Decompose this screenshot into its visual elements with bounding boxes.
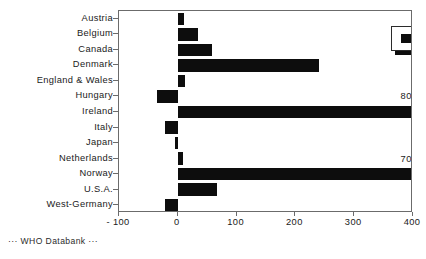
x-axis-tick [118, 212, 119, 216]
x-axis-tick-label: 300 [345, 217, 362, 227]
category-label: U.S.A. [0, 184, 113, 194]
bar-row [119, 135, 411, 151]
category-label: Ireland [0, 106, 113, 116]
bar-netherlands [178, 152, 183, 165]
bar-row [119, 11, 411, 27]
bar-u-s-a [178, 183, 217, 196]
x-axis-tick [294, 212, 295, 216]
legend-box: 15 - 19 year [391, 26, 412, 51]
value-annotation: 708 % [349, 154, 412, 164]
bar-row [119, 104, 411, 120]
category-label: Belgium [0, 28, 113, 38]
category-label: Hungary [0, 90, 113, 100]
bar-norway [178, 168, 412, 181]
x-axis-ticks: - 1000100200300400 [118, 212, 412, 217]
x-axis-tick [412, 212, 413, 216]
category-label: Austria [0, 13, 113, 23]
y-axis-category-labels: AustriaBelgiumCanadaDenmarkEngland & Wal… [0, 10, 113, 212]
bar-row [119, 58, 411, 74]
category-label: Denmark [0, 59, 113, 69]
plot-area: 800 %708 % 15 - 19 year [118, 10, 412, 212]
category-label: Norway [0, 168, 113, 178]
chart-legend: 15 - 19 year [391, 26, 412, 51]
bar-hungary [157, 90, 178, 103]
value-annotation: 800 % [349, 91, 412, 101]
bar-italy [165, 121, 178, 134]
category-label: West-Germany [0, 199, 113, 209]
bar-chart-figure: AustriaBelgiumCanadaDenmarkEngland & Wal… [0, 0, 426, 259]
x-axis-tick-label: 0 [174, 217, 180, 227]
category-label: England & Wales [0, 75, 113, 85]
x-axis-tick-label: 400 [404, 217, 421, 227]
legend-swatch-icon [401, 34, 412, 43]
category-label: Japan [0, 137, 113, 147]
bar-west-germany [165, 199, 178, 212]
x-axis-tick-label: 100 [227, 217, 244, 227]
bar-row [119, 27, 411, 43]
category-label: Italy [0, 122, 113, 132]
source-note: ··· WHO Databank ··· [8, 236, 98, 246]
bar-row [119, 120, 411, 136]
bar-row [119, 42, 411, 58]
bar-japan [175, 137, 178, 150]
bar-row [119, 73, 411, 89]
bar-row [119, 166, 411, 182]
bar-canada [178, 44, 212, 57]
category-label: Netherlands [0, 153, 113, 163]
bar-row [119, 182, 411, 198]
category-label: Canada [0, 44, 113, 54]
x-axis-tick [236, 212, 237, 216]
x-axis-tick-label: - 100 [106, 217, 129, 227]
bar-ireland [178, 106, 412, 119]
bar-belgium [178, 28, 198, 41]
bar-england-wales [178, 75, 186, 88]
x-axis-tick [353, 212, 354, 216]
bar-austria [178, 13, 184, 26]
bar-denmark [178, 59, 319, 72]
bar-row [119, 197, 411, 212]
x-axis-tick [177, 212, 178, 216]
x-axis-tick-label: 200 [286, 217, 303, 227]
